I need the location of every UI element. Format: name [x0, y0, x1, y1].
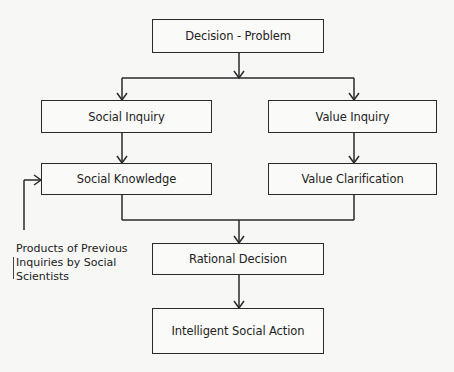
- note-line: Scientists: [16, 270, 128, 284]
- node-value-inquiry: Value Inquiry: [268, 100, 437, 133]
- note-line: Products of Previous: [16, 242, 128, 256]
- node-label: Intelligent Social Action: [172, 324, 305, 338]
- node-label: Rational Decision: [189, 252, 287, 266]
- node-label: Value Inquiry: [316, 110, 390, 124]
- node-rational-decision: Rational Decision: [152, 243, 324, 275]
- note-margin-bar: [13, 257, 14, 279]
- node-label: Social Knowledge: [77, 172, 176, 186]
- node-decision-problem: Decision - Problem: [152, 19, 324, 53]
- node-social-inquiry: Social Inquiry: [41, 100, 212, 133]
- flowchart-canvas: Decision - Problem Social Inquiry Value …: [0, 0, 454, 372]
- node-intelligent-social-action: Intelligent Social Action: [152, 308, 324, 354]
- node-label: Value Clarification: [301, 172, 403, 186]
- note-line: Inquiries by Social: [16, 256, 128, 270]
- node-label: Decision - Problem: [185, 29, 291, 43]
- previous-inquiries-note: Products of Previous Inquiries by Social…: [16, 242, 128, 284]
- node-value-clarification: Value Clarification: [268, 163, 437, 195]
- node-label: Social Inquiry: [88, 110, 164, 124]
- node-social-knowledge: Social Knowledge: [41, 163, 212, 195]
